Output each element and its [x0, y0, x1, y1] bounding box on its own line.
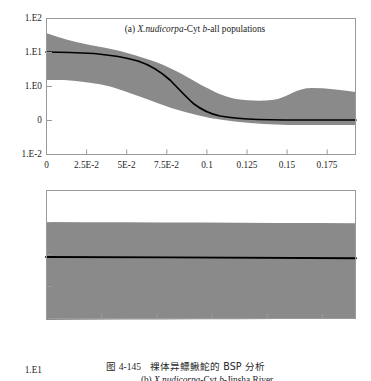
panel-a-xtick-6: 0.15	[266, 160, 308, 170]
panel-a-x-ticks	[47, 149, 328, 155]
panel-a-title-mid: -Cyt	[184, 24, 203, 34]
panel-b-title-suffix: -Jinsha River	[224, 375, 273, 381]
hpd-band-a	[46, 33, 356, 125]
panel-a-ytick-2: 1.E0	[2, 81, 42, 91]
panel-a-title-prefix: (a)	[125, 24, 138, 34]
panel-a-title-species: X.nudicorpa	[137, 24, 183, 34]
figure-caption-text: 裸体异鳔鳅鮀的 BSP 分析	[150, 361, 264, 372]
hpd-band-b	[46, 222, 356, 320]
panel-a-ytick-1: 1.E1	[2, 47, 42, 57]
figure-caption-label: 图 4-145	[106, 361, 141, 372]
panel-a-title: (a) X.nudicorpa-Cyt b-all populations	[70, 24, 320, 35]
panel-a-xtick-4: 0.1	[188, 160, 226, 170]
figure-caption: 图 4-145 裸体异鳔鳅鮀的 BSP 分析	[0, 360, 371, 374]
median-line-b	[46, 257, 356, 258]
panel-a-xtick-1: 2.5E-2	[62, 160, 111, 170]
panel-b-title-species: X.nudicorpa	[154, 375, 200, 381]
panel-b-title: (b) X.nudicorpa-Cyt b-Jinsha River	[82, 375, 332, 381]
chart-panel-b: (b) X.nudicorpa-Cyt b-Jinsha River 1.E1 …	[0, 180, 371, 355]
panel-a-xtick-5: 0.125	[224, 160, 270, 170]
panel-a-xtick-7: 0.175	[304, 160, 350, 170]
panel-b-plot	[0, 180, 371, 355]
panel-b-title-mid: -Cyt	[200, 375, 219, 381]
panel-a-xtick-3: 7.5E-2	[142, 160, 191, 170]
panel-b-title-prefix: (b)	[141, 375, 154, 381]
panel-a-xtick-0: 0	[26, 160, 67, 170]
panel-a-ytick-0: 1.E2	[2, 13, 42, 23]
chart-panel-a: (a) X.nudicorpa-Cyt b-all populations 1.…	[0, 0, 371, 180]
panel-a-ytick-4: 1.E-2	[2, 149, 42, 159]
bsp-figure: (a) X.nudicorpa-Cyt b-all populations 1.…	[0, 0, 371, 381]
panel-a-title-suffix: -all populations	[207, 24, 265, 34]
panel-a-ytick-3: 0	[2, 115, 42, 125]
